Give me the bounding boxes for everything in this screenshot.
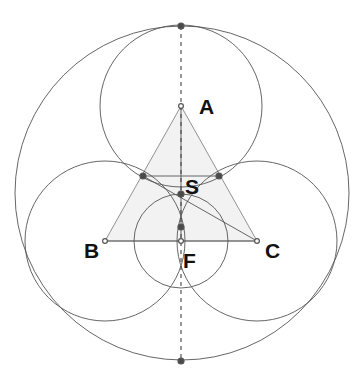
point-t_top: [178, 23, 184, 29]
label-f: F: [183, 249, 196, 272]
point-a: [179, 104, 184, 109]
point-t_ac: [216, 173, 222, 179]
point-t_ab: [140, 173, 146, 179]
point-f: [179, 239, 184, 244]
point-t_bottom: [178, 358, 184, 364]
label-c: C: [265, 239, 280, 262]
geometry-canvas: ABCSF: [0, 0, 364, 380]
point-p_mid: [178, 224, 184, 230]
label-b: B: [84, 239, 99, 262]
label-s: S: [185, 175, 199, 198]
point-b: [103, 239, 108, 244]
label-a: A: [199, 95, 214, 118]
point-s: [178, 191, 184, 197]
point-c: [255, 239, 260, 244]
geometry-figure: ABCSF: [0, 0, 364, 380]
